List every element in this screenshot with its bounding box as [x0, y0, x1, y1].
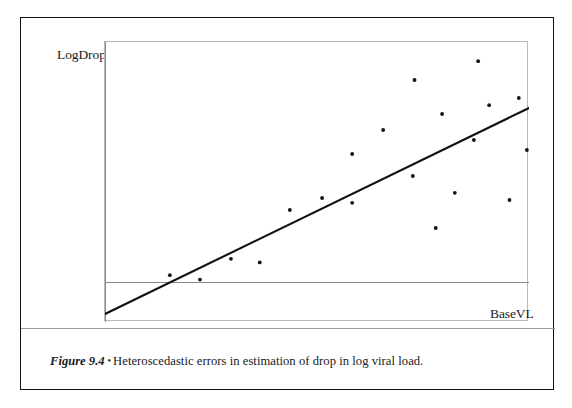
data-point	[508, 198, 512, 202]
caption-text: Heteroscedastic errors in estimation of …	[113, 354, 423, 368]
data-point	[350, 201, 354, 205]
data-point	[198, 278, 202, 282]
data-point	[413, 78, 417, 82]
data-point	[168, 273, 172, 277]
caption-divider	[21, 328, 555, 329]
data-point	[525, 148, 529, 152]
x-axis-label: BaseVL	[490, 307, 534, 321]
figure-caption: Figure 9.4•Heteroscedastic errors in est…	[50, 354, 530, 369]
figure-box: LogDropVL (0, 0) BaseVL Figure 9.4•Heter…	[20, 17, 554, 390]
figure-number: Figure 9.4	[50, 354, 105, 368]
data-point	[411, 174, 415, 178]
data-point	[434, 226, 438, 230]
axis-lines	[105, 42, 529, 322]
data-point-group	[168, 59, 529, 281]
data-point	[476, 59, 480, 63]
data-point	[472, 138, 476, 142]
data-point	[517, 96, 521, 100]
data-point	[440, 112, 444, 116]
data-point	[487, 103, 491, 107]
data-point	[350, 152, 354, 156]
data-point	[453, 191, 457, 195]
data-point	[258, 261, 262, 265]
scatter-plot-svg	[105, 42, 529, 322]
plot-area	[104, 41, 528, 321]
fit-line	[105, 108, 529, 314]
data-point	[288, 208, 292, 212]
data-point	[381, 128, 385, 132]
caption-bullet-icon: •	[105, 355, 114, 366]
data-point	[320, 196, 324, 200]
regression-line	[105, 108, 529, 314]
data-point	[229, 257, 233, 261]
